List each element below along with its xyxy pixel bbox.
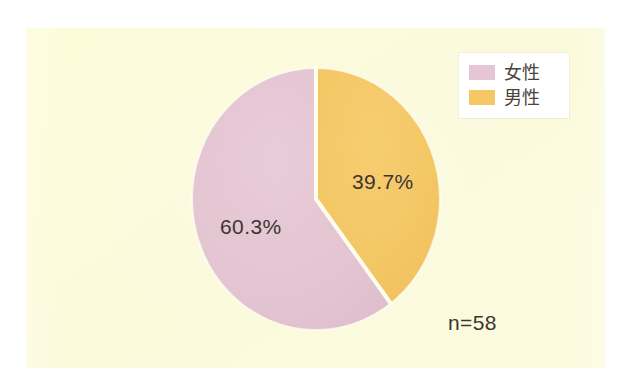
legend-item-female[interactable]: 女性 [469, 60, 561, 85]
pie-label-male: 39.7% [352, 170, 414, 194]
caption-strip [60, 376, 540, 387]
chart-panel: 39.7% 60.3% n=58 女性 男性 [26, 28, 605, 368]
legend-swatch-male-icon [469, 90, 495, 105]
legend-item-male[interactable]: 男性 [469, 85, 561, 110]
sample-size-annotation: n=58 [448, 311, 497, 335]
legend-swatch-female-icon [469, 65, 495, 80]
legend-label-female: 女性 [504, 64, 540, 82]
pie-label-female: 60.3% [220, 215, 282, 239]
legend-label-male: 男性 [504, 89, 540, 107]
figure-root: 39.7% 60.3% n=58 女性 男性 [0, 0, 624, 387]
legend: 女性 男性 [458, 52, 570, 119]
